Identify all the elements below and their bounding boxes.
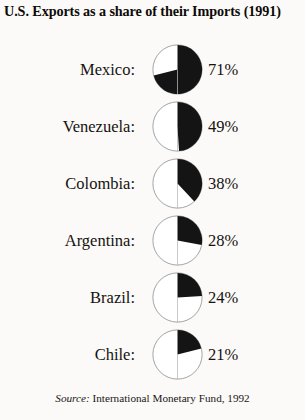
percent-value: 24%	[208, 269, 238, 326]
pie-row: Argentina:28%	[0, 212, 305, 269]
figure-container: U.S. Exports as a share of their Imports…	[0, 0, 305, 420]
pie-row: Mexico:71%	[0, 41, 305, 98]
pie-row-list: Mexico:71%Venezuela:49%Colombia:38%Argen…	[0, 41, 305, 383]
figure-title: U.S. Exports as a share of their Imports…	[4, 3, 304, 20]
pie-filled-wedge	[178, 216, 203, 245]
country-label: Brazil:	[90, 269, 135, 326]
pie-chart-icon	[152, 101, 203, 152]
country-label: Chile:	[95, 326, 135, 383]
source-label: Source:	[55, 392, 89, 404]
country-label: Venezuela:	[63, 98, 135, 155]
pie-row: Brazil:24%	[0, 269, 305, 326]
pie-chart-icon	[152, 158, 203, 209]
source-text: International Monetary Fund, 1992	[92, 392, 249, 404]
pie-row: Chile:21%	[0, 326, 305, 383]
pie-chart-icon	[152, 272, 203, 323]
source-note: Source: International Monetary Fund, 199…	[0, 392, 305, 404]
country-label: Argentina:	[65, 212, 135, 269]
country-label: Colombia:	[65, 155, 135, 212]
percent-value: 21%	[208, 326, 238, 383]
pie-chart-icon	[152, 215, 203, 266]
percent-value: 49%	[208, 98, 238, 155]
pie-filled-wedge	[178, 273, 203, 298]
percent-value: 38%	[208, 155, 238, 212]
country-label: Mexico:	[80, 41, 135, 98]
percent-value: 71%	[208, 41, 238, 98]
pie-filled-wedge	[178, 102, 203, 151]
percent-value: 28%	[208, 212, 238, 269]
pie-row: Colombia:38%	[0, 155, 305, 212]
pie-chart-icon	[152, 44, 203, 95]
pie-row: Venezuela:49%	[0, 98, 305, 155]
pie-chart-icon	[152, 329, 203, 380]
